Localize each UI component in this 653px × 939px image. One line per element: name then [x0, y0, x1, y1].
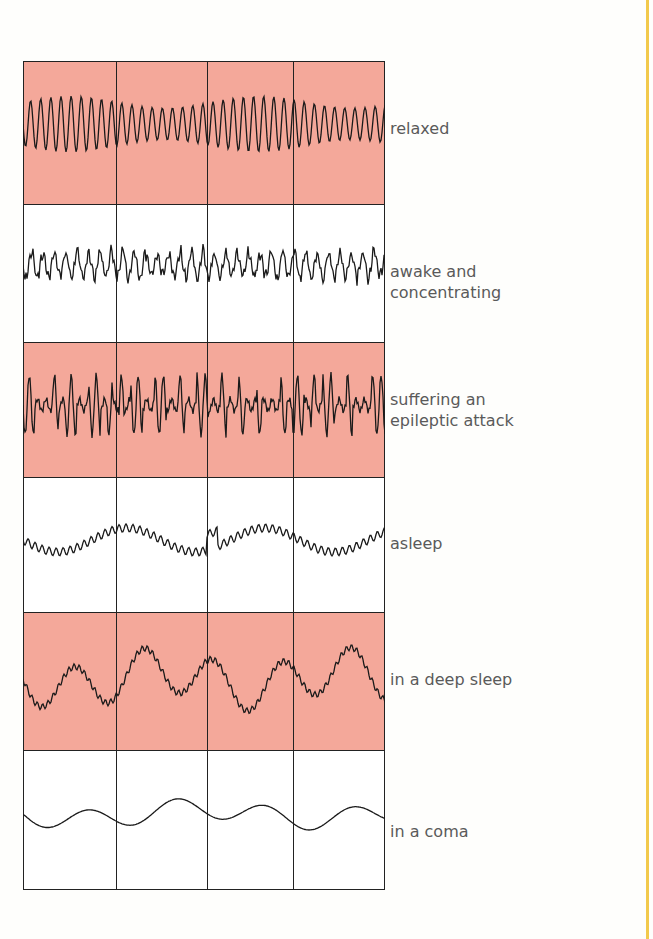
- eeg-trace-asleep: [23, 478, 385, 613]
- row-label: relaxed: [390, 118, 449, 139]
- eeg-trace-deep-sleep: [23, 613, 385, 751]
- row-label: in a coma: [390, 821, 469, 842]
- eeg-trace-relaxed: [23, 62, 385, 205]
- eeg-row-coma: in a coma: [23, 750, 385, 890]
- eeg-row-deep-sleep: in a deep sleep: [23, 612, 385, 750]
- row-label: in a deep sleep: [390, 669, 512, 690]
- row-label: awake andconcentrating: [390, 261, 501, 303]
- row-label: asleep: [390, 533, 442, 554]
- eeg-row-epileptic: suffering anepileptic attack: [23, 342, 385, 477]
- eeg-trace-epileptic: [23, 343, 385, 478]
- eeg-row-asleep: asleep: [23, 477, 385, 612]
- page-edge-rule: [646, 0, 649, 939]
- eeg-row-relaxed: relaxed: [23, 61, 385, 204]
- eeg-trace-awake: [23, 205, 385, 343]
- eeg-row-awake: awake andconcentrating: [23, 204, 385, 342]
- row-label: suffering anepileptic attack: [390, 389, 514, 431]
- eeg-grid: relaxed awake andconcentrating suffering…: [23, 61, 385, 890]
- eeg-trace-coma: [23, 751, 385, 891]
